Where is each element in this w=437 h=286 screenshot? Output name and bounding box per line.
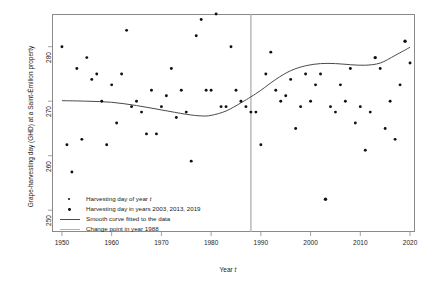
y-tick-label: 280 [45,45,52,69]
legend-curve-line-icon [60,214,82,224]
point-icon [68,208,71,211]
x-axis-title-text: Year [220,266,235,273]
y-tick-label: 270 [45,100,52,124]
x-tick-label: 1950 [47,239,77,246]
y-tick-label: 250 [45,209,52,233]
x-tick-label: 1990 [246,239,276,246]
x-tick-label: 2020 [395,239,425,246]
legend-item-label: Harvesting day of year t [86,194,151,204]
legend-label-variable: t [150,195,152,202]
legend-point-marker-icon [60,194,82,204]
x-tick-label: 2010 [345,239,375,246]
x-axis-title-variable: t [235,266,237,273]
line-icon [60,219,80,220]
y-tick-label: 260 [45,154,52,178]
legend-item-label: Smooth curve fitted to the data [86,214,170,224]
x-tick-label: 2000 [296,239,326,246]
y-axis-title: Grape-harvesting day (GHD) at a Saint-Ém… [27,37,34,217]
legend-item-label: Change point in year 1988 [86,224,159,234]
x-tick-label: 1960 [97,239,127,246]
chart-figure: 280270260250 195019601970198019902000201… [0,0,437,286]
legend-item-label: Harvesting day in years 2003, 2013, 2019 [86,204,201,214]
x-tick-label: 1980 [196,239,226,246]
legend-point-marker-icon [60,204,82,214]
x-axis-title: Year t [183,266,273,273]
line-icon [60,229,80,230]
x-tick-label: 1970 [146,239,176,246]
legend-changepoint-line-icon [60,224,82,234]
point-icon [68,198,70,200]
